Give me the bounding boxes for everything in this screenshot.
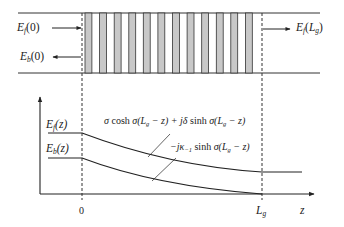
efL-label: Ef(Lg) — [296, 22, 323, 34]
grating-stripe — [202, 13, 209, 73]
grating-stripe — [100, 13, 107, 73]
grating-stripe — [245, 13, 252, 73]
grating-stripe — [143, 13, 150, 73]
grating-stripe — [216, 13, 223, 73]
x-tick-lg: Lg — [256, 205, 266, 217]
backward-leader-line — [152, 158, 176, 181]
grating-stripe — [173, 13, 180, 73]
grating-stripe — [85, 13, 92, 73]
grating-region — [85, 13, 252, 73]
backward-field-curve — [48, 158, 262, 194]
x-tick-zero: 0 — [79, 206, 84, 216]
eb-z-label: Eb(z) — [46, 143, 69, 155]
grating-stripe — [158, 13, 165, 73]
grating-diagram — [0, 0, 344, 227]
grating-stripe — [187, 13, 194, 73]
ef0-label: Ef(0) — [17, 22, 40, 34]
ef-z-label: Ef(z) — [46, 119, 67, 131]
backward-field-formula: −jκ−1 sinh σ(Lg − z) — [170, 142, 250, 153]
grating-stripe — [114, 13, 121, 73]
grating-stripe — [129, 13, 136, 73]
x-axis-label: z — [300, 205, 304, 217]
grating-stripe — [231, 13, 238, 73]
eb0-label: Eb(0) — [20, 51, 44, 63]
forward-field-formula: σ cosh σ(Lg − z) + jδ sinh σ(Lg − z) — [104, 116, 245, 127]
forward-leader-line — [148, 134, 170, 157]
